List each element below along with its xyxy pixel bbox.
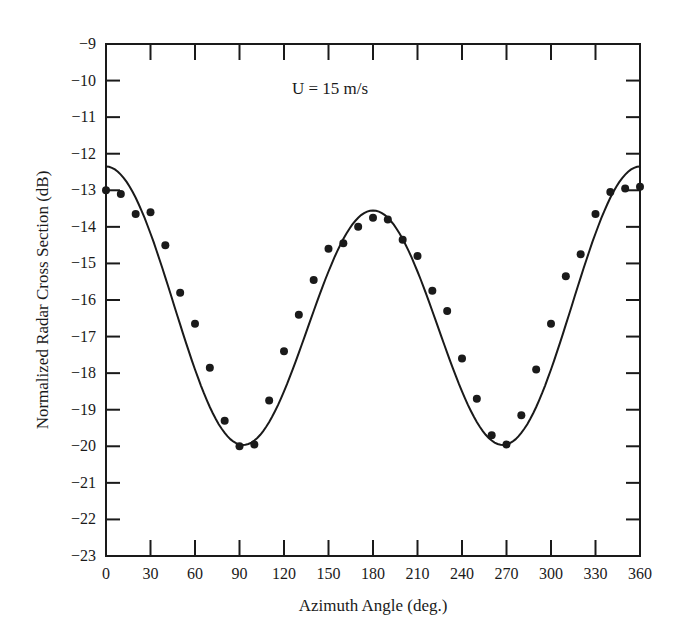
data-point (339, 239, 347, 247)
y-tick-label: −16 (71, 291, 96, 308)
plot-border (106, 44, 640, 556)
data-point (102, 186, 110, 194)
data-point (354, 223, 362, 231)
data-point (161, 241, 169, 249)
plot-frame (106, 44, 640, 556)
y-tick-label: −22 (71, 510, 96, 527)
data-point (325, 245, 333, 253)
y-tick-label: −20 (71, 437, 96, 454)
data-point (236, 442, 244, 450)
data-point (621, 184, 629, 192)
data-point (428, 287, 436, 295)
data-point (399, 236, 407, 244)
y-tick-label: −17 (71, 328, 96, 345)
x-tick-label: 150 (317, 565, 341, 582)
y-tick-label: −21 (71, 474, 96, 491)
y-tick-label: −10 (71, 72, 96, 89)
data-point (191, 320, 199, 328)
x-tick-label: 90 (232, 565, 248, 582)
data-point (414, 252, 422, 260)
x-tick-label: 330 (584, 565, 608, 582)
data-point (176, 289, 184, 297)
x-tick-label: 180 (361, 565, 385, 582)
data-point (547, 320, 555, 328)
data-point (606, 188, 614, 196)
x-tick-label: 210 (406, 565, 430, 582)
data-point (384, 216, 392, 224)
x-tick-label: 60 (187, 565, 203, 582)
y-tick-label: −18 (71, 364, 96, 381)
data-point (532, 365, 540, 373)
data-point (517, 411, 525, 419)
x-tick-label: 120 (272, 565, 296, 582)
data-markers (102, 183, 644, 451)
data-point (310, 276, 318, 284)
data-point (265, 397, 273, 405)
x-tick-label: 300 (539, 565, 563, 582)
data-point (117, 190, 125, 198)
data-point (488, 431, 496, 439)
wind-speed-annotation: U = 15 m/s (292, 79, 368, 98)
data-point (147, 208, 155, 216)
y-tick-label: −15 (71, 254, 96, 271)
x-axis-title: Azimuth Angle (deg.) (299, 596, 448, 615)
y-tick-label: −11 (72, 108, 96, 125)
radar-cross-section-chart: 0306090120150180210240270300330360 −9−10… (0, 0, 682, 644)
data-point (221, 417, 229, 425)
data-point (295, 311, 303, 319)
y-tick-label: −13 (71, 181, 96, 198)
y-tick-label: −12 (71, 145, 96, 162)
x-tick-label: 360 (628, 565, 652, 582)
data-point (443, 307, 451, 315)
data-point (280, 347, 288, 355)
y-axis-title: Normalized Radar Cross Section (dB) (33, 171, 52, 430)
data-point (458, 355, 466, 363)
data-point (577, 250, 585, 258)
data-point (636, 183, 644, 191)
y-tick-label: −9 (79, 35, 96, 52)
data-point (562, 272, 570, 280)
data-point (132, 210, 140, 218)
data-point (369, 214, 377, 222)
x-tick-label: 270 (495, 565, 519, 582)
x-tick-label: 30 (143, 565, 159, 582)
x-tick-label: 240 (450, 565, 474, 582)
data-point (503, 440, 511, 448)
data-point (206, 364, 214, 372)
data-point (592, 210, 600, 218)
x-tick-label: 0 (102, 565, 110, 582)
data-point (250, 440, 258, 448)
fit-curve (106, 167, 640, 445)
y-tick-label: −23 (71, 547, 96, 564)
y-tick-label: −14 (71, 218, 96, 235)
y-axis-ticks: −9−10−11−12−13−14−15−16−17−18−19−20−21−2… (71, 35, 640, 564)
data-point (473, 395, 481, 403)
y-tick-label: −19 (71, 401, 96, 418)
